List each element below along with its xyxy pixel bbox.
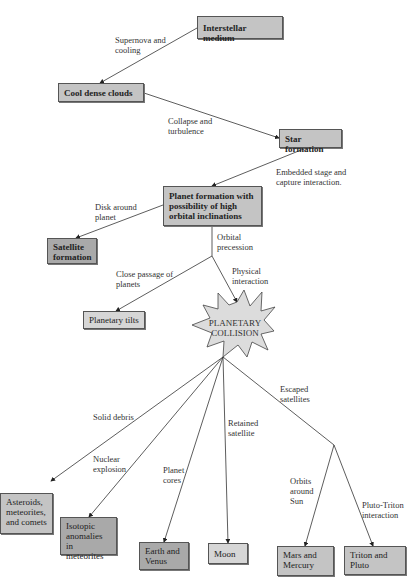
label-retained-satellite: Retained satellite <box>228 418 258 438</box>
label-orbits-sun: Orbits around Sun <box>290 476 314 506</box>
node-asteroids: Asteroids, meteorites, and comets <box>0 493 53 534</box>
edge-pluto-triton <box>334 445 373 546</box>
node-earth-venus: Earth and Venus <box>139 542 189 570</box>
node-isotopic-anomalies: Isotopic anomalies in meteorites <box>60 517 117 555</box>
label-disk: Disk around planet <box>95 202 137 222</box>
label-escaped-satellites: Escaped satellites <box>280 384 310 404</box>
node-cool-dense-clouds: Cool dense clouds <box>58 83 144 102</box>
label-collapse: Collapse and turbulence <box>168 116 212 136</box>
node-interstellar-medium: Interstellar medium <box>197 16 283 39</box>
label-close-passage: Close passage of planets <box>116 269 173 289</box>
node-star-formation: Star formation <box>279 129 342 148</box>
label-planet-cores: Planet cores <box>163 465 184 485</box>
label-orbital-precession: Orbital precession <box>217 232 253 252</box>
label-solid-debris: Solid debris <box>93 412 134 422</box>
node-planet-formation: Planet formation with possibility of hig… <box>163 186 262 226</box>
node-planetary-collision: PLANETARY COLLISION <box>205 318 265 338</box>
node-moon: Moon <box>208 543 248 564</box>
label-supernova: Supernova and cooling <box>115 35 166 55</box>
label-pluto-triton: Pluto-Triton interaction <box>362 500 404 520</box>
node-satellite-formation: Satellite formation <box>47 238 97 264</box>
edge-retained-satellite <box>223 357 228 543</box>
label-physical-interaction: Physical interaction <box>232 266 268 286</box>
edge-planet-cores <box>164 357 223 542</box>
node-triton-pluto: Triton and Pluto <box>344 546 406 575</box>
edge-solid-debris <box>51 357 223 481</box>
edge-nuclear-explosion <box>89 357 223 517</box>
label-nuclear-explosion: Nuclear explosion <box>93 454 126 474</box>
node-mars-mercury: Mars and Mercury <box>277 546 334 576</box>
node-planetary-tilts: Planetary tilts <box>83 311 145 329</box>
label-embedded: Embedded stage and capture interaction. <box>276 167 346 187</box>
